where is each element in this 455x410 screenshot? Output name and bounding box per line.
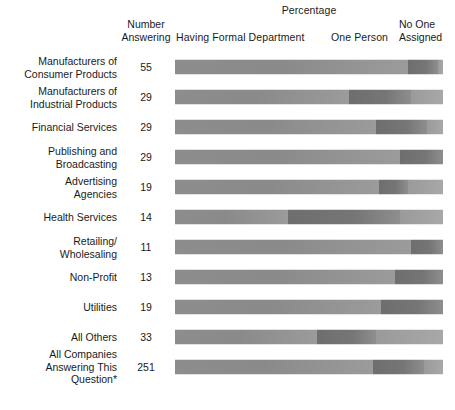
row-category-label-line1: Retailing/ xyxy=(0,235,117,248)
bar-segment-one-person xyxy=(317,330,376,345)
row-number-answering: 251 xyxy=(120,361,172,373)
row-category-label-line2: Agencies xyxy=(0,187,117,200)
row-category-label: AdvertisingAgencies xyxy=(0,175,117,200)
bar-segment-no-one-assigned xyxy=(376,330,443,345)
bar-segment-having-formal-department xyxy=(175,120,376,135)
chart-row: Manufacturers ofConsumer Products55 xyxy=(0,52,455,82)
bar-segment-no-one-assigned xyxy=(427,120,443,135)
chart-row: Health Services14 xyxy=(0,202,455,232)
bar-segment-no-one-assigned xyxy=(408,180,443,195)
row-number-answering: 14 xyxy=(120,211,172,223)
row-category-label: Manufacturers ofConsumer Products xyxy=(0,55,117,80)
chart-rows: Manufacturers ofConsumer Products55Manuf… xyxy=(0,52,455,382)
chart-row: Financial Services29 xyxy=(0,112,455,142)
row-category-label: Non-Profit xyxy=(0,271,117,284)
bar-segment-one-person xyxy=(408,60,437,75)
bar-segment-one-person xyxy=(376,120,427,135)
row-category-label-line2: Industrial Products xyxy=(0,97,117,110)
row-category-label-line1: Non-Profit xyxy=(0,271,117,284)
row-number-answering: 29 xyxy=(120,151,172,163)
row-category-label: Publishing andBroadcasting xyxy=(0,145,117,170)
bar-segment-one-person xyxy=(288,210,401,225)
row-category-label-line1: Financial Services xyxy=(0,121,117,134)
bar-segment-having-formal-department xyxy=(175,180,379,195)
percentage-header-label: Percentage xyxy=(254,4,364,16)
bar-segment-one-person xyxy=(379,180,408,195)
no-one-assigned-line2: Assigned xyxy=(399,31,453,44)
row-bar xyxy=(175,180,443,195)
legend-label-no-one-assigned: No One Assigned xyxy=(399,18,453,44)
legend-label-one-person: One Person xyxy=(331,31,388,43)
row-bar xyxy=(175,120,443,135)
row-number-answering: 11 xyxy=(120,241,172,253)
chart-row: Non-Profit13 xyxy=(0,262,455,292)
stacked-bar-chart: Percentage Number Answering Having Forma… xyxy=(0,0,455,410)
row-category-label: Manufacturers ofIndustrial Products xyxy=(0,85,117,110)
row-bar xyxy=(175,210,443,225)
chart-row: Publishing andBroadcasting29 xyxy=(0,142,455,172)
row-number-answering: 13 xyxy=(120,271,172,283)
bar-segment-one-person xyxy=(373,360,424,375)
row-category-label-line1: All Companies xyxy=(0,348,117,361)
row-category-label-line2: Broadcasting xyxy=(0,157,117,170)
row-category-label: Utilities xyxy=(0,301,117,314)
row-category-label: Health Services xyxy=(0,211,117,224)
bar-segment-having-formal-department xyxy=(175,240,411,255)
row-bar xyxy=(175,360,443,375)
row-category-label-line1: Health Services xyxy=(0,211,117,224)
row-number-answering: 19 xyxy=(120,301,172,313)
row-bar xyxy=(175,270,443,285)
bar-segment-having-formal-department xyxy=(175,270,395,285)
row-category-label-line1: Advertising xyxy=(0,175,117,188)
row-category-label-line1: Manufacturers of xyxy=(0,55,117,68)
chart-row: Utilities19 xyxy=(0,292,455,322)
bar-segment-one-person xyxy=(400,150,443,165)
row-bar xyxy=(175,90,443,105)
bar-segment-one-person xyxy=(381,300,443,315)
number-answering-header: Number Answering xyxy=(120,18,172,44)
bar-segment-one-person xyxy=(395,270,443,285)
row-category-label: All CompaniesAnswering This Question* xyxy=(0,348,117,386)
row-category-label: Financial Services xyxy=(0,121,117,134)
bar-segment-having-formal-department xyxy=(175,300,381,315)
row-number-answering: 55 xyxy=(120,61,172,73)
row-bar xyxy=(175,150,443,165)
row-category-label-line1: Manufacturers of xyxy=(0,85,117,98)
bar-segment-having-formal-department xyxy=(175,90,349,105)
row-bar xyxy=(175,330,443,345)
no-one-assigned-line1: No One xyxy=(399,18,453,31)
row-bar xyxy=(175,240,443,255)
row-category-label-line2: Wholesaling xyxy=(0,247,117,260)
row-category-label: Retailing/Wholesaling xyxy=(0,235,117,260)
bar-segment-no-one-assigned xyxy=(438,60,443,75)
bar-segment-having-formal-department xyxy=(175,60,408,75)
chart-row: AdvertisingAgencies19 xyxy=(0,172,455,202)
bar-segment-no-one-assigned xyxy=(400,210,443,225)
bar-segment-one-person xyxy=(349,90,411,105)
chart-header: Percentage Number Answering Having Forma… xyxy=(0,0,455,52)
row-category-label: All Others xyxy=(0,331,117,344)
chart-row: Manufacturers ofIndustrial Products29 xyxy=(0,82,455,112)
row-category-label-line2: Consumer Products xyxy=(0,67,117,80)
bar-segment-having-formal-department xyxy=(175,330,317,345)
row-bar xyxy=(175,60,443,75)
number-answering-line1: Number xyxy=(120,18,172,31)
row-category-label-line2: Answering This Question* xyxy=(0,361,117,386)
bar-segment-having-formal-department xyxy=(175,150,400,165)
row-number-answering: 29 xyxy=(120,121,172,133)
number-answering-line2: Answering xyxy=(120,31,172,44)
row-number-answering: 33 xyxy=(120,331,172,343)
bar-segment-no-one-assigned xyxy=(411,90,443,105)
row-category-label-line1: All Others xyxy=(0,331,117,344)
row-category-label-line1: Utilities xyxy=(0,301,117,314)
row-bar xyxy=(175,300,443,315)
row-number-answering: 19 xyxy=(120,181,172,193)
bar-segment-no-one-assigned xyxy=(424,360,443,375)
legend-label-having-formal-department: Having Formal Department xyxy=(176,31,304,43)
bar-segment-one-person xyxy=(411,240,443,255)
bar-segment-having-formal-department xyxy=(175,210,288,225)
chart-row: Retailing/Wholesaling11 xyxy=(0,232,455,262)
chart-row: All CompaniesAnswering This Question*251 xyxy=(0,352,455,382)
row-number-answering: 29 xyxy=(120,91,172,103)
row-category-label-line1: Publishing and xyxy=(0,145,117,158)
